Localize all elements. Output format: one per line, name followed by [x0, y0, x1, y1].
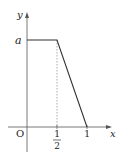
y-axis-arrow-icon: [25, 12, 29, 18]
function-graph: y x O a 1 2 1: [0, 0, 120, 156]
x-axis-label: x: [110, 128, 116, 139]
a-label: a: [15, 34, 22, 47]
half-numerator: 1: [54, 129, 60, 139]
origin-label: O: [16, 128, 24, 139]
half-denominator: 2: [54, 141, 60, 151]
one-label: 1: [84, 129, 90, 139]
y-axis-label: y: [16, 9, 23, 20]
